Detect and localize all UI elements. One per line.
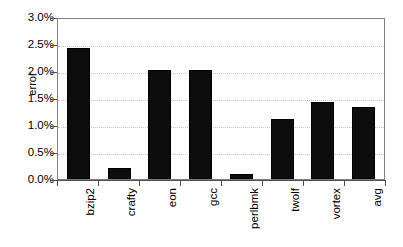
category-label-gcc: gcc <box>207 188 219 206</box>
bar-gcc <box>189 70 212 179</box>
category-slot: avg <box>344 188 385 246</box>
y-axis-tick-label: 1.0% <box>20 120 54 132</box>
plot-area <box>57 18 385 180</box>
x-axis-tick-mark <box>139 180 140 186</box>
bar-slot <box>303 19 344 179</box>
category-label-perlbmk: perlbmk <box>248 188 260 229</box>
x-axis-tick-mark <box>98 180 99 186</box>
y-axis-tick-label: 2.0% <box>20 66 54 78</box>
category-label-vortex: vortex <box>330 188 342 219</box>
y-axis-tick-label: 0.0% <box>20 174 54 186</box>
y-axis-tick-label: 1.5% <box>20 93 54 105</box>
category-slot: vortex <box>303 188 344 246</box>
bar-avg <box>352 107 375 179</box>
category-slot: eon <box>139 188 180 246</box>
bar-chart: error 0.0%0.5%1.0%1.5%2.0%2.5%3.0% bzip2… <box>0 0 403 247</box>
bar-slot <box>99 19 140 179</box>
x-axis-tick-mark <box>221 180 222 186</box>
bar-vortex <box>311 102 334 179</box>
bar-twolf <box>271 119 294 179</box>
bar-crafty <box>108 168 131 179</box>
bar-slot <box>221 19 262 179</box>
x-axis-tick-mark <box>262 180 263 186</box>
y-axis-tick-label: 3.0% <box>20 12 54 24</box>
bar-perlbmk <box>230 174 253 179</box>
x-axis-tick-marks <box>57 180 385 186</box>
x-axis-tick-mark <box>57 180 58 186</box>
category-slot: crafty <box>98 188 139 246</box>
category-slot: gcc <box>180 188 221 246</box>
bar-slot <box>140 19 181 179</box>
y-axis-tick-labels: 0.0%0.5%1.0%1.5%2.0%2.5%3.0% <box>20 18 54 180</box>
x-axis-tick-mark <box>344 180 345 186</box>
category-label-twolf: twolf <box>289 188 301 212</box>
y-axis-tick-label: 2.5% <box>20 39 54 51</box>
category-slot: twolf <box>262 188 303 246</box>
category-label-avg: avg <box>371 188 383 207</box>
x-axis-tick-mark <box>385 180 386 186</box>
category-slot: bzip2 <box>57 188 98 246</box>
bar-eon <box>148 70 171 179</box>
y-axis-tick-label: 0.5% <box>20 147 54 159</box>
category-label-eon: eon <box>166 188 178 207</box>
x-axis-category-labels: bzip2craftyeongccperlbmktwolfvortexavg <box>57 188 385 246</box>
category-label-crafty: crafty <box>125 188 137 216</box>
bar-slot <box>343 19 384 179</box>
category-slot: perlbmk <box>221 188 262 246</box>
bar-slot <box>262 19 303 179</box>
bar-slot <box>58 19 99 179</box>
x-axis-tick-mark <box>180 180 181 186</box>
category-label-bzip2: bzip2 <box>84 188 96 216</box>
bar-series <box>58 19 384 179</box>
x-axis-tick-mark <box>303 180 304 186</box>
bar-slot <box>180 19 221 179</box>
bar-bzip2 <box>67 48 90 179</box>
